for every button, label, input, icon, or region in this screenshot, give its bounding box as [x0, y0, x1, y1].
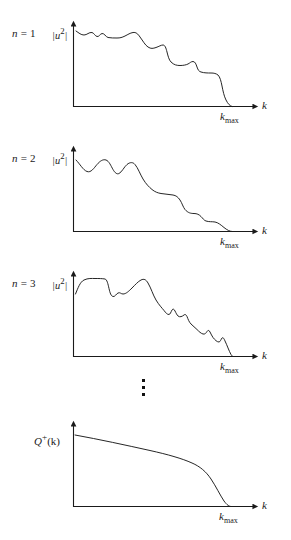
- data-curve-2: [76, 160, 232, 232]
- figure-container: n = 1 |u2| k kmax n = 2 |u2|: [0, 0, 291, 540]
- plot-area-1: [0, 0, 291, 125]
- data-curve-3: [76, 278, 234, 356]
- x-axis-label-2: k: [262, 224, 267, 236]
- x-axis-label-q: k: [262, 499, 267, 511]
- panel-n-2: n = 2 |u2| k kmax: [0, 125, 291, 250]
- x-axis-tick-kmax-2: kmax: [220, 235, 239, 247]
- x-axis-label-1: k: [262, 99, 267, 111]
- x-axis-label-3: k: [262, 349, 267, 361]
- x-axis-tick-kmax-1: kmax: [220, 110, 239, 122]
- data-curve-1: [76, 31, 232, 107]
- plot-area-2: [0, 125, 291, 250]
- data-curve-q: [75, 435, 231, 507]
- vertical-ellipsis-icon: [136, 379, 150, 400]
- x-axis-tick-kmax-q: kmax: [219, 510, 238, 522]
- ellipsis-dot: [142, 386, 145, 389]
- panel-row: n = 3 |u2| k kmax: [0, 250, 291, 375]
- panel-row: n = 1 |u2| k kmax: [0, 0, 291, 125]
- ellipsis-dot: [142, 379, 145, 382]
- panel-row: Q+(k) k kmax: [0, 400, 291, 525]
- panel-row: n = 2 |u2| k kmax: [0, 125, 291, 250]
- plot-area-q: [0, 400, 291, 525]
- plot-area-3: [0, 250, 291, 375]
- panel-n-3: n = 3 |u2| k kmax: [0, 250, 291, 375]
- panel-q-plus: Q+(k) k kmax: [0, 400, 291, 525]
- x-axis-tick-kmax-3: kmax: [220, 360, 239, 372]
- ellipsis-dot: [142, 393, 145, 396]
- panel-n-1: n = 1 |u2| k kmax: [0, 0, 291, 125]
